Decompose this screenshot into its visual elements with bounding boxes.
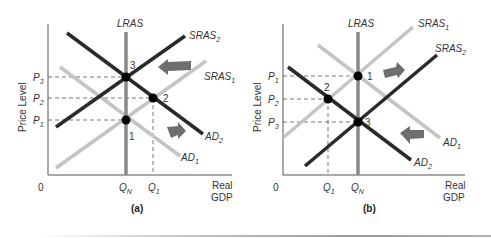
shift-left-arrow-icon <box>400 126 424 144</box>
ad-as-diagram: 3 2 1 LRAS SRAS2 SRAS1 AD2 AD1 P3 P2 P1 … <box>0 0 491 238</box>
sras2-label: SRAS2 <box>189 30 220 43</box>
ad1-label: AD1 <box>180 152 199 165</box>
ad2-label: AD2 <box>413 157 432 170</box>
price-label-p1: P1 <box>268 71 279 84</box>
point-1 <box>354 72 363 81</box>
x-axis-label-real: Real <box>445 180 466 191</box>
x-axis-label-gdp: GDP <box>443 192 465 203</box>
x-axis-label-gdp: GDP <box>211 192 233 203</box>
point-2 <box>149 94 158 103</box>
price-label-p3: P3 <box>268 117 279 130</box>
price-label-p2: P2 <box>33 93 44 106</box>
y-axis-label: Price Level <box>17 83 28 132</box>
panel-caption-b: (b) <box>363 203 376 214</box>
ad2-curve <box>67 33 203 134</box>
point-label-3: 3 <box>130 60 136 71</box>
lras-label: LRAS <box>348 18 374 29</box>
price-label-p1: P1 <box>33 115 44 128</box>
sras1-label: SRAS1 <box>418 18 449 31</box>
point-label-2: 2 <box>163 93 169 104</box>
point-1 <box>122 116 131 125</box>
point-label-2: 2 <box>324 82 330 93</box>
x-axis-label-real: Real <box>212 180 233 191</box>
point-2 <box>324 95 333 104</box>
panel-caption-a: (a) <box>131 203 143 214</box>
sras1-label: SRAS1 <box>204 71 235 84</box>
y-axis-label: Price Level <box>252 83 263 132</box>
price-label-p3: P3 <box>33 72 44 85</box>
bottom-divider <box>40 235 491 237</box>
point-label-3: 3 <box>365 117 371 128</box>
panel-b: 1 2 3 LRAS SRAS1 SRAS2 AD1 AD2 P1 P2 P3 … <box>252 18 466 214</box>
point-3 <box>122 73 131 82</box>
point-3 <box>354 118 363 127</box>
ad2-label: AD2 <box>204 131 223 144</box>
point-label-1: 1 <box>367 71 373 82</box>
sras1-curve <box>284 27 413 137</box>
shift-left-arrow-icon <box>158 59 191 75</box>
origin-label: 0 <box>38 182 44 193</box>
quantity-label-qn: QN <box>351 182 365 195</box>
shift-right-arrow-icon <box>167 122 186 139</box>
quantity-label-qn: QN <box>119 182 133 195</box>
shift-right-arrow-icon <box>383 62 405 78</box>
quantity-label-q1: Q1 <box>148 182 160 195</box>
price-label-p2: P2 <box>268 94 279 107</box>
point-label-1: 1 <box>129 131 135 142</box>
lras-label: LRAS <box>117 18 143 29</box>
quantity-label-q1: Q1 <box>323 182 335 195</box>
panel-a: 3 2 1 LRAS SRAS2 SRAS1 AD2 AD1 P3 P2 P1 … <box>17 18 235 214</box>
sras2-label: SRAS2 <box>435 43 466 56</box>
ad1-label: AD1 <box>442 137 461 150</box>
origin-label: 0 <box>273 182 279 193</box>
